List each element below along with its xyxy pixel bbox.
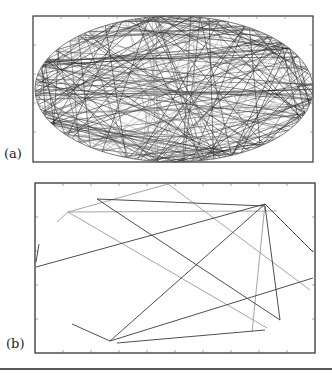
figure-canvas [0, 0, 332, 376]
panel-b [35, 183, 315, 353]
panel-a [33, 16, 313, 162]
